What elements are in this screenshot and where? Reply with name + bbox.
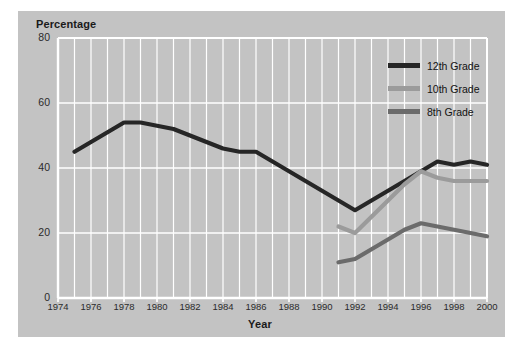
chart-legend: 12th Grade10th Grade8th Grade	[388, 60, 480, 117]
x-tick-label: 1988	[272, 301, 306, 312]
chart-figure: Percentage 806040200 1974197619781980198…	[0, 0, 520, 352]
x-tick-label: 1978	[107, 301, 141, 312]
legend-swatch	[388, 86, 420, 91]
x-tick-label: 1986	[239, 301, 273, 312]
x-tick-label: 1982	[173, 301, 207, 312]
x-tick-label: 1984	[206, 301, 240, 312]
y-tick-label: 60	[20, 96, 50, 108]
legend-entry-12th-grade: 12th Grade	[388, 60, 480, 71]
series-line-12th-grade	[75, 123, 488, 211]
x-tick-label: 2000	[470, 301, 504, 312]
x-tick-label: 1976	[74, 301, 108, 312]
x-tick-label: 1994	[371, 301, 405, 312]
x-tick-label: 1980	[140, 301, 174, 312]
legend-entry-8th-grade: 8th Grade	[388, 106, 480, 117]
plot-area	[0, 0, 520, 352]
legend-entry-10th-grade: 10th Grade	[388, 83, 480, 94]
legend-label: 8th Grade	[427, 106, 474, 118]
legend-swatch	[388, 63, 420, 68]
x-tick-label: 1992	[338, 301, 372, 312]
legend-label: 12th Grade	[427, 60, 480, 72]
y-tick-label: 20	[20, 226, 50, 238]
x-axis-title: Year	[0, 318, 520, 330]
legend-swatch	[388, 109, 420, 114]
y-tick-label: 40	[20, 161, 50, 173]
legend-label: 10th Grade	[427, 83, 480, 95]
series-lines	[75, 123, 488, 263]
x-tick-label: 1990	[305, 301, 339, 312]
x-tick-label: 1996	[404, 301, 438, 312]
x-tick-label: 1974	[41, 301, 75, 312]
series-line-10th-grade	[339, 171, 488, 233]
x-tick-label: 1998	[437, 301, 471, 312]
y-tick-label: 80	[20, 31, 50, 43]
